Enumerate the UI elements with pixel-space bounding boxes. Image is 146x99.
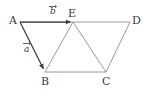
segment-EC xyxy=(73,22,106,72)
vertex-label-B: B xyxy=(41,76,49,87)
vector-diagram-figure: A E D B C b a xyxy=(0,0,146,99)
segment-CD xyxy=(106,22,130,72)
vertex-label-D: D xyxy=(132,15,141,26)
vector-label-b: b xyxy=(50,7,56,16)
vertex-label-A: A xyxy=(9,15,17,26)
vector-label-a: a xyxy=(24,45,29,54)
vertex-label-E: E xyxy=(68,8,76,19)
segment-EB xyxy=(45,22,73,72)
vertex-label-C: C xyxy=(102,76,110,87)
